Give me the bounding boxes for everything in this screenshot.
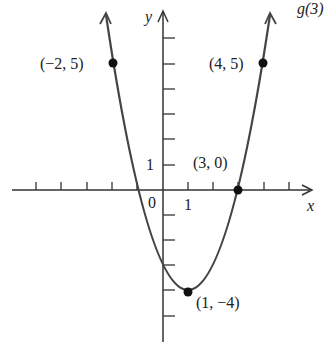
- x-axis-label: x: [306, 197, 314, 214]
- y-tick-label-1: 1: [146, 156, 154, 173]
- parabola-curve: [106, 15, 270, 290]
- point-1-neg4: [184, 288, 193, 297]
- point-3-0: [234, 186, 243, 195]
- point-neg2-5: [109, 59, 118, 68]
- graph: (−2, 5) (4, 5) (3, 0) (1, −4) 0 1 1 x y …: [0, 0, 335, 350]
- label-point-1-neg4: (1, −4): [196, 294, 240, 312]
- y-axis-label: y: [143, 8, 153, 26]
- label-point-4-5: (4, 5): [209, 55, 244, 73]
- origin-label: 0: [148, 194, 156, 211]
- label-point-3-0: (3, 0): [193, 154, 228, 172]
- point-4-5: [259, 59, 268, 68]
- label-point-neg2-5: (−2, 5): [40, 55, 84, 73]
- x-tick-label-1: 1: [184, 196, 192, 213]
- corner-annotation: g(3): [297, 0, 324, 18]
